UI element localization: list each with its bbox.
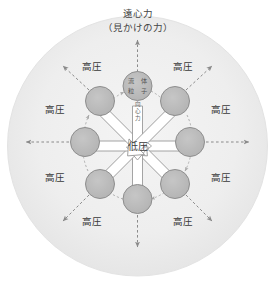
particle-top-left: [86, 87, 115, 116]
particle-bottom-right: [161, 170, 190, 199]
caption-line-1: 遠心力: [123, 8, 153, 19]
centripetal-force-label: 向 心 力: [135, 100, 141, 122]
particle-top-right: [161, 87, 190, 116]
particle-bottom-left: [86, 170, 115, 199]
rotating-fluid-diagram: 向 心 力 流 体 粒 子 低圧 高圧 高圧 高圧: [0, 0, 275, 284]
high-pressure-label-top-right: 高圧: [173, 61, 193, 72]
high-pressure-label-bottom-right: 高圧: [173, 216, 193, 227]
high-pressure-label-right-upper: 高圧: [211, 104, 231, 115]
particle-char-2: 粒: [128, 87, 134, 95]
high-pressure-label-right-lower: 高圧: [211, 172, 231, 183]
figure-canvas: 向 心 力 流 体 粒 子 低圧 高圧 高圧 高圧: [0, 0, 275, 284]
particle-char-1: 体: [141, 77, 148, 85]
caption-line-2: （見かけの力）: [103, 22, 173, 33]
high-pressure-label-left-upper: 高圧: [45, 104, 65, 115]
high-pressure-label-left-lower: 高圧: [45, 172, 65, 183]
particle-right: [176, 128, 205, 157]
particle-char-0: 流: [128, 77, 134, 85]
low-pressure-label: 低圧: [128, 140, 148, 152]
centripetal-char-2: 力: [135, 114, 141, 122]
particle-char-3: 子: [141, 87, 147, 94]
centripetal-char-1: 心: [135, 108, 141, 114]
particle-bottom: [123, 185, 152, 214]
high-pressure-label-bottom-left: 高圧: [82, 216, 102, 227]
particle-left: [71, 128, 100, 157]
high-pressure-label-top-left: 高圧: [82, 61, 102, 72]
